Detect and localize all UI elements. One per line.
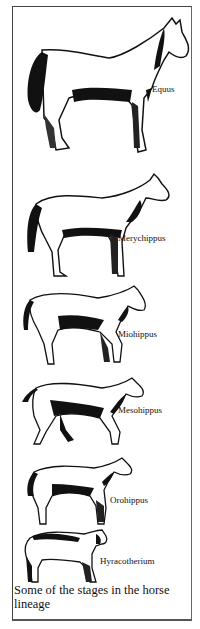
- miohippus-illustration: [18, 282, 148, 367]
- figure-caption: Some of the stages in the horse lineage: [14, 583, 190, 611]
- orohippus-illustration: [24, 452, 134, 527]
- label-mesohippus: Mesohippus: [118, 405, 162, 415]
- label-miohippus: Miohippus: [118, 329, 157, 339]
- hyracotherium-illustration: [18, 526, 108, 586]
- merychippus-illustration: [22, 170, 172, 280]
- label-hyracotherium: Hyracotherium: [100, 556, 154, 566]
- label-merychippus: Merychippus: [118, 233, 166, 243]
- label-orohippus: Orohippus: [110, 495, 148, 505]
- label-equus: Equus: [152, 84, 175, 94]
